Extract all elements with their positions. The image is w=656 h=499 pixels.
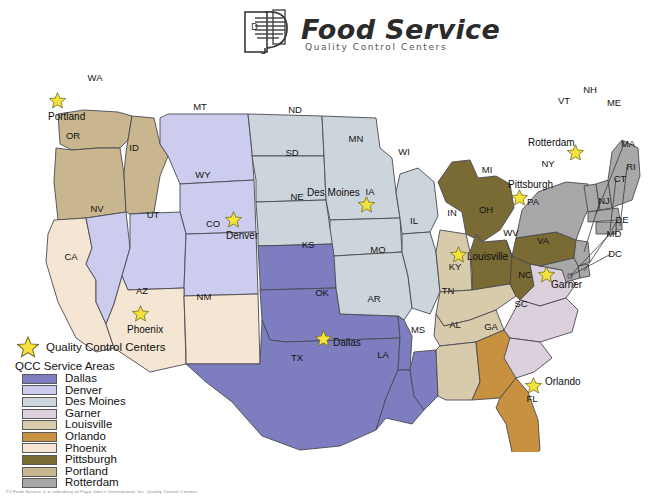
legend-swatch [22, 374, 57, 384]
callout-label-ri: RI [626, 161, 636, 172]
legend-item-pittsburgh: Pittsburgh [14, 454, 214, 466]
qcc-label-rotterdam: Rotterdam [528, 137, 575, 148]
qcc-label-garner: Garner [551, 279, 583, 290]
state-ut [122, 212, 186, 290]
qcc-label-pittsburgh: Pittsburgh [508, 179, 553, 190]
state-label-vt: VT [558, 95, 570, 106]
state-label-ms: MS [411, 324, 425, 335]
legend-swatch [22, 455, 57, 465]
qcc-label-denver: Denver [226, 230, 259, 241]
state-label-ok: OK [315, 287, 329, 298]
legend-swatch [22, 409, 57, 419]
state-label-ia: IA [366, 186, 376, 197]
map-infographic: D Food Service Quality Control Centers W… [0, 0, 656, 499]
state-al [436, 342, 480, 400]
state-label-sc: SC [514, 298, 527, 309]
state-label-il: IL [410, 215, 418, 226]
state-co [184, 232, 258, 296]
legend-item-dallas: Dallas [14, 373, 214, 385]
legend-swatch [22, 467, 57, 477]
usa-map: WAORIDMTWYNVUTCOCAAZNMNDSDNEMNIAWIMOILKS… [0, 52, 656, 352]
state-ia [330, 218, 402, 256]
state-label-ga: GA [484, 321, 498, 332]
qcc-label-phoenix: Phoenix [127, 324, 163, 335]
state-label-wy: WY [195, 169, 211, 180]
state-label-nd: ND [288, 104, 302, 115]
qcc-label-dallas: Dallas [333, 337, 361, 348]
legend-qcc-label: Quality Control Centers [46, 341, 166, 353]
legend-swatch [22, 478, 57, 488]
callout-label-ct: CT [614, 173, 627, 184]
star-icon [14, 336, 42, 358]
state-label-co: CO [206, 218, 220, 229]
star-icon-orlando [525, 378, 541, 393]
qcc-label-portland: Portland [48, 111, 85, 122]
header: D Food Service Quality Control Centers [0, 0, 656, 56]
state-ks [258, 244, 336, 290]
state-mo [334, 252, 412, 320]
callout-label-de: DE [615, 214, 628, 225]
state-label-fl: FL [526, 393, 537, 404]
state-label-ca: CA [64, 251, 78, 262]
legend-label: Dallas [65, 373, 97, 385]
state-ne [256, 200, 334, 246]
legend-item-garner: Garner [14, 408, 214, 420]
state-ny [516, 182, 594, 240]
state-label-ut: UT [147, 209, 160, 220]
state-label-sd: SD [285, 147, 298, 158]
star-icon-pittsburgh [511, 190, 527, 205]
legend-swatch [22, 397, 57, 407]
state-label-in: IN [447, 207, 457, 218]
state-label-nc: NC [518, 269, 532, 280]
state-oh [470, 234, 512, 290]
legend-item-des-moines: Des Moines [14, 396, 214, 408]
brand-title: Food Service [301, 14, 500, 45]
state-label-wi: WI [398, 146, 410, 157]
state-label-ky: KY [449, 261, 462, 272]
legend-label: Rotterdam [65, 477, 119, 489]
state-label-oh: OH [479, 204, 493, 215]
qcc-label-orlando: Orlando [545, 376, 581, 387]
legend-qcc-row: Quality Control Centers [14, 336, 214, 358]
svg-text:D: D [251, 22, 258, 32]
qcc-label-des-moines: Des Moines [307, 187, 360, 198]
legend-swatch [22, 420, 57, 430]
state-label-va: VA [537, 235, 550, 246]
state-label-al: AL [449, 319, 461, 330]
state-label-ar: AR [367, 293, 380, 304]
state-label-me: ME [607, 97, 621, 108]
state-label-mn: MN [349, 133, 364, 144]
legend-items: DallasDenverDes MoinesGarnerLouisvilleOr… [14, 373, 214, 489]
callout-label-dc: DC [608, 248, 622, 259]
state-label-nh: NH [583, 84, 597, 95]
star-icon-portland [49, 93, 65, 108]
footnote: PJ Food Service is a subsidiary of Papa … [6, 489, 646, 494]
state-label-mo: MO [370, 244, 385, 255]
legend-label: Orlando [65, 431, 106, 443]
state-label-la: LA [377, 349, 389, 360]
callout-label-nj: NJ [598, 195, 610, 206]
state-label-pa: PA [527, 196, 540, 207]
legend-item-louisville: Louisville [14, 419, 214, 431]
state-label-wa: WA [88, 72, 104, 83]
state-label-tx: TX [291, 352, 304, 363]
legend-swatch [22, 385, 57, 395]
state-label-mt: MT [193, 101, 207, 112]
state-label-wv: WV [503, 227, 519, 238]
callout-label-md: MD [607, 228, 622, 239]
brand-subtitle: Quality Control Centers [305, 42, 447, 52]
state-label-ny: NY [541, 158, 555, 169]
legend-label: Pittsburgh [65, 454, 117, 466]
state-label-tn: TN [442, 285, 455, 296]
callout-label-ma: MA [621, 138, 636, 149]
qcc-label-louisville: Louisville [467, 251, 509, 262]
legend-item-orlando: Orlando [14, 431, 214, 443]
state-label-nv: NV [90, 203, 104, 214]
pj-monogram-logo: D [243, 4, 305, 54]
state-label-ne: NE [290, 191, 303, 202]
state-label-az: AZ [136, 285, 148, 296]
state-label-or: OR [66, 130, 80, 141]
state-label-ks: KS [302, 239, 315, 250]
state-label-id: ID [129, 142, 139, 153]
legend-heading: QCC Service Areas [15, 360, 214, 372]
